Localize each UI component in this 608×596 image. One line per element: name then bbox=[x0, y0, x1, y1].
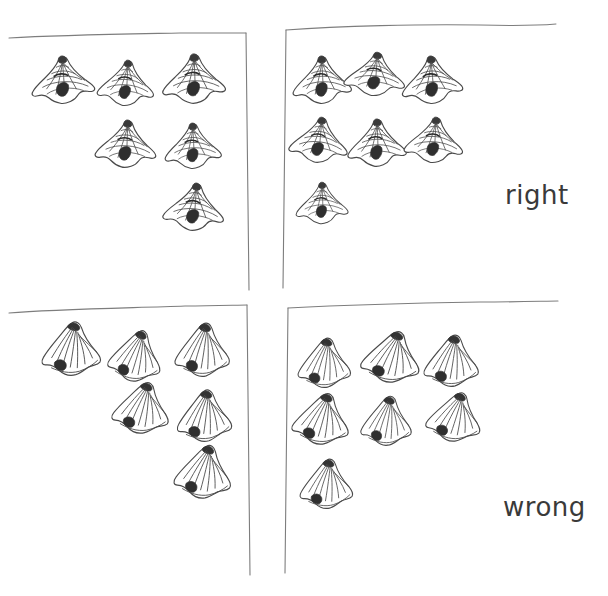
panel-top-right bbox=[288, 50, 464, 225]
label-wrong: wrong bbox=[503, 492, 586, 522]
frame-line-top-left-vertical bbox=[246, 33, 249, 290]
frame-line-mid-left-horizontal bbox=[9, 305, 247, 313]
sketch-shape-top-right-3 bbox=[399, 53, 464, 106]
sketch-figure-page: right wrong bbox=[0, 0, 608, 596]
sketch-shape-bottom-right-4 bbox=[291, 392, 350, 446]
frame-line-mid-right-horizontal bbox=[288, 301, 558, 308]
sketch-shape-top-right-6 bbox=[404, 116, 465, 164]
sketch-shape-top-left-4 bbox=[95, 119, 157, 169]
frame-line-mid-left-vertical bbox=[247, 305, 250, 575]
sketch-shape-bottom-left-6 bbox=[173, 444, 231, 499]
sketch-shape-top-right-7 bbox=[295, 181, 348, 224]
sketch-shape-bottom-left-3 bbox=[173, 322, 230, 378]
sketched-shapes-layer bbox=[30, 50, 483, 510]
sketch-shape-bottom-right-2 bbox=[360, 329, 422, 384]
sketch-shape-bottom-left-5 bbox=[174, 388, 233, 444]
sketch-shape-bottom-right-1 bbox=[296, 337, 352, 389]
sketch-shape-bottom-right-6 bbox=[424, 390, 483, 443]
sketch-shape-top-left-3 bbox=[161, 53, 225, 105]
frame-line-top-right-vertical bbox=[283, 30, 286, 288]
label-right: right bbox=[505, 180, 569, 210]
sketch-shape-top-right-4 bbox=[288, 115, 350, 165]
sketch-shape-bottom-left-1 bbox=[39, 320, 101, 377]
sketch-shape-top-right-5 bbox=[347, 118, 407, 167]
sketch-shape-bottom-right-3 bbox=[422, 334, 479, 388]
sketch-shape-bottom-left-4 bbox=[111, 381, 170, 435]
frame-line-mid-right-vertical bbox=[285, 308, 288, 573]
panel-bottom-right bbox=[291, 329, 483, 510]
panel-bottom-left bbox=[39, 320, 233, 499]
sketch-shape-bottom-left-2 bbox=[106, 328, 163, 383]
sketch-shape-top-right-2 bbox=[343, 50, 407, 98]
sketch-shape-top-left-2 bbox=[97, 59, 156, 107]
panel-top-left bbox=[30, 53, 226, 233]
sketch-shape-bottom-right-5 bbox=[360, 396, 412, 447]
sketch-shape-top-left-6 bbox=[162, 181, 226, 233]
panel-frame-lines bbox=[9, 24, 558, 575]
frame-line-top-left-horizontal bbox=[9, 33, 246, 38]
sketch-shape-top-right-1 bbox=[291, 55, 352, 105]
sketch-shape-bottom-right-7 bbox=[298, 458, 354, 510]
sketch-shape-top-left-1 bbox=[30, 54, 96, 106]
sketch-shape-top-left-5 bbox=[163, 122, 222, 170]
frame-line-top-right-horizontal bbox=[286, 24, 556, 30]
